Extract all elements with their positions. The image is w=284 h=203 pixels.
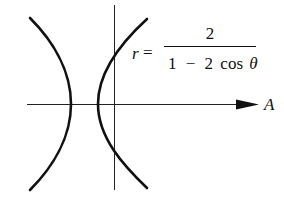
denominator-minus: − <box>186 54 196 73</box>
polar-axis-label: A <box>263 95 275 114</box>
hyperbola-right-branch <box>98 19 147 188</box>
denominator-cos: cos <box>220 54 243 73</box>
denominator-two: 2 <box>205 54 214 73</box>
equation-numerator: 2 <box>206 24 215 43</box>
denominator-one: 1 <box>168 54 177 73</box>
equation-equals: = <box>143 43 153 62</box>
denominator-theta: θ <box>249 54 257 73</box>
hyperbola-diagram: r = 2 1 − 2 cos θ A <box>0 0 284 203</box>
equation: r = 2 1 − 2 cos θ <box>132 24 258 73</box>
equation-lhs: r <box>132 44 139 63</box>
polar-axis-arrowhead-icon <box>236 100 259 110</box>
equation-denominator: 1 − 2 cos θ <box>168 54 258 73</box>
